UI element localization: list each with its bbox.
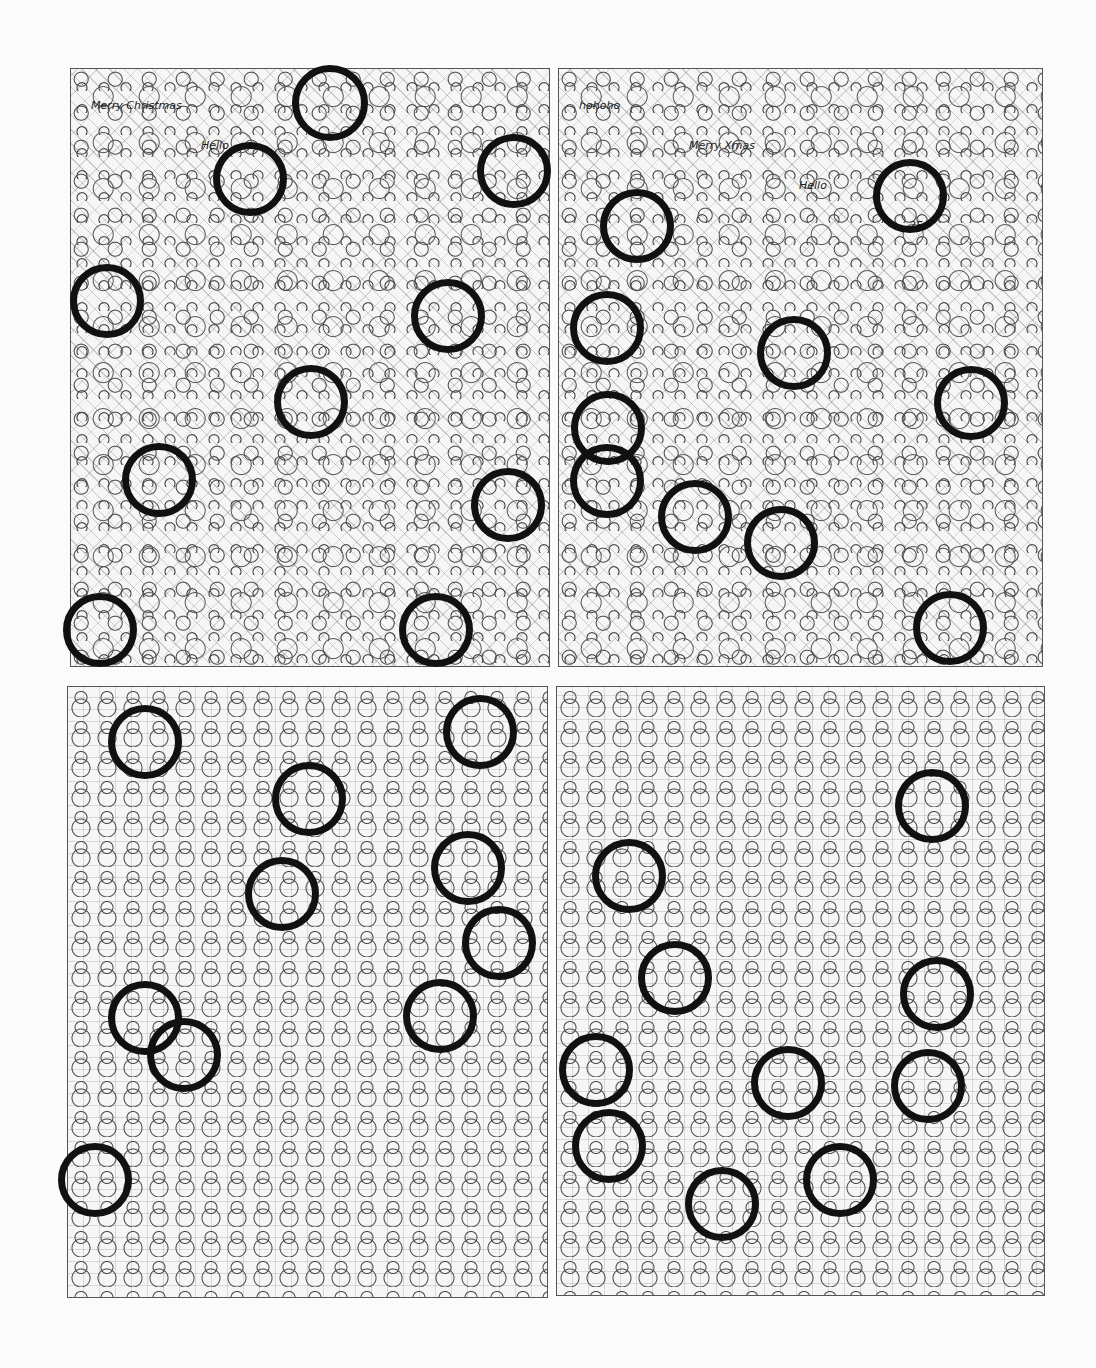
answer-circle xyxy=(70,264,144,338)
doodle-text: Merry Xmas xyxy=(689,139,755,152)
answer-circle xyxy=(913,591,987,665)
doodle-text: Merry Christmas xyxy=(91,99,182,112)
answer-circle xyxy=(658,480,732,554)
answer-circle xyxy=(292,65,368,141)
answer-circle xyxy=(638,941,712,1015)
answer-circle xyxy=(403,979,477,1053)
answer-circle xyxy=(63,593,137,667)
answer-circle xyxy=(147,1018,221,1092)
answer-circle xyxy=(744,506,818,580)
answer-circle xyxy=(757,316,831,390)
answer-circle xyxy=(274,365,348,439)
answer-circle xyxy=(685,1167,759,1241)
answer-circle xyxy=(572,1109,646,1183)
answer-circle xyxy=(895,769,969,843)
answer-circle xyxy=(891,1049,965,1123)
answer-circle xyxy=(108,705,182,779)
answer-circle xyxy=(272,762,346,836)
answer-circle xyxy=(559,1033,633,1107)
answer-circle xyxy=(477,134,551,208)
doodle-text: Hello xyxy=(799,179,827,192)
answer-circle xyxy=(570,444,644,518)
answer-circle xyxy=(245,857,319,931)
answer-circle xyxy=(411,279,485,353)
answer-circle xyxy=(471,468,545,542)
answer-circle xyxy=(399,593,473,667)
answer-circle xyxy=(803,1143,877,1217)
answer-circle xyxy=(600,189,674,263)
answer-circle xyxy=(213,142,287,216)
answer-circle xyxy=(462,906,536,980)
answer-circle xyxy=(751,1046,825,1120)
doodle-text: hohoho xyxy=(579,99,620,112)
answer-circle xyxy=(431,831,505,905)
answer-circle xyxy=(900,957,974,1031)
answer-circle xyxy=(443,695,517,769)
answer-circle xyxy=(122,443,196,517)
doodle-text: Hello xyxy=(201,139,229,152)
answer-circle xyxy=(934,366,1008,440)
answer-circle xyxy=(58,1143,132,1217)
answer-circle xyxy=(570,291,644,365)
answer-circle xyxy=(592,839,666,913)
answer-circle xyxy=(873,159,947,233)
